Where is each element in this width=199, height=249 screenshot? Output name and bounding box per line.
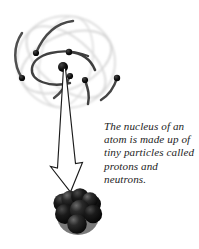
electron-top-center [66,49,72,55]
nucleon-front-bottom [67,214,87,234]
electron-mid-right [67,73,73,79]
electron-far-right [114,75,120,81]
electron-lower-left [19,75,25,81]
nucleon-mid-right [84,205,102,223]
electron-upper-left [33,50,39,56]
caption-text: The nucleus of an atom is made up of tin… [104,120,199,186]
electron-right-inner [82,77,88,83]
